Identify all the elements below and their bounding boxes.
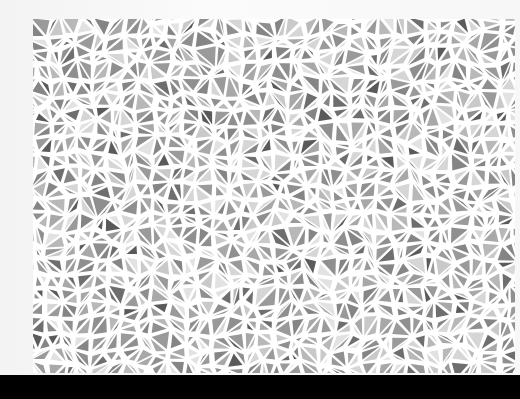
mosaic-triangle [514, 228, 515, 236]
black-bottom-band [0, 375, 520, 399]
triangle-mosaic [33, 19, 515, 373]
mosaic-triangle [505, 19, 515, 21]
